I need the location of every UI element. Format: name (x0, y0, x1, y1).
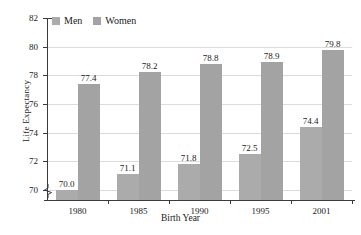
bar-value-label: 78.8 (203, 53, 219, 63)
gridline (48, 47, 352, 48)
x-axis-tick-label: 1985 (130, 206, 148, 216)
y-axis-tick-label: 70 (29, 185, 38, 194)
legend-item-men: Men (52, 16, 82, 26)
x-axis-tick-label: 1980 (69, 206, 87, 216)
y-axis-tick: 76 (43, 104, 48, 105)
bar-men-1980: 70.0 (56, 190, 78, 200)
y-axis-line (47, 18, 48, 200)
axis-break-icon (43, 184, 53, 198)
x-axis-tick (291, 200, 292, 204)
x-axis-tick (352, 200, 353, 204)
y-axis-tick-label: 78 (29, 71, 38, 80)
bar-men-1990: 71.8 (178, 164, 200, 200)
bar-value-label: 78.2 (142, 61, 158, 71)
bar-value-label: 72.5 (242, 143, 258, 153)
y-axis-tick: 82 (43, 18, 48, 19)
bar-value-label: 78.9 (264, 51, 280, 61)
x-axis-tick (108, 200, 109, 204)
bar-women-1980: 77.4 (78, 84, 100, 200)
legend-item-women: Women (93, 16, 136, 26)
y-axis-tick-label: 74 (29, 128, 38, 137)
bar-value-label: 79.8 (325, 39, 341, 49)
x-axis-tick-label: 1995 (252, 206, 270, 216)
bar-women-1995: 78.9 (261, 62, 283, 200)
x-axis-tick-label: 1990 (191, 206, 209, 216)
bar-women-2001: 79.8 (322, 50, 344, 200)
bar-value-label: 71.8 (181, 153, 197, 163)
x-axis-title: Birth Year (0, 213, 361, 223)
y-axis-tick: 80 (43, 47, 48, 48)
legend-swatch-men (52, 17, 60, 25)
bar-value-label: 70.0 (59, 179, 75, 189)
legend-label-men: Men (64, 16, 82, 26)
y-axis-tick-label: 72 (29, 157, 38, 166)
y-axis-title: Life Expectancy (21, 31, 31, 191)
bar-value-label: 74.4 (303, 116, 319, 126)
chart-legend: Men Women (52, 16, 136, 26)
bar-women-1990: 78.8 (200, 64, 222, 200)
x-axis-tick (169, 200, 170, 204)
bar-women-1985: 78.2 (139, 72, 161, 200)
x-axis-tick-label: 2001 (313, 206, 331, 216)
plot-area: 70727476788082 19801985199019952001 70.0… (47, 18, 352, 200)
legend-label-women: Women (105, 16, 136, 26)
bar-men-1985: 71.1 (117, 174, 139, 200)
y-axis-tick-label: 80 (29, 42, 38, 51)
y-axis-tick-label: 76 (29, 99, 38, 108)
y-axis-tick: 72 (43, 161, 48, 162)
y-axis-tick: 74 (43, 133, 48, 134)
y-axis-tick: 78 (43, 75, 48, 76)
bar-value-label: 71.1 (120, 163, 136, 173)
bar-chart: Life Expectancy Birth Year Men Women 707… (0, 0, 361, 235)
x-axis-tick (230, 200, 231, 204)
y-axis-tick: 70 (43, 190, 48, 191)
y-axis-tick-label: 82 (29, 14, 38, 23)
legend-swatch-women (93, 17, 101, 25)
bar-men-2001: 74.4 (300, 127, 322, 200)
bar-value-label: 77.4 (81, 73, 97, 83)
x-axis-line (44, 200, 355, 201)
bar-men-1995: 72.5 (239, 154, 261, 200)
